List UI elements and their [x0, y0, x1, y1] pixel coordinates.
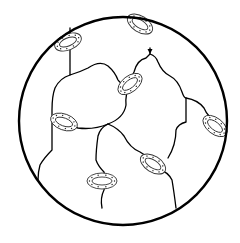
polymer-chain — [160, 170, 176, 208]
polymer-chain — [150, 54, 218, 122]
ring-crosslinker-icon — [137, 150, 169, 178]
ring-crosslinker-icon — [124, 10, 156, 38]
polymer-chain — [168, 98, 186, 158]
polymer-chain — [96, 124, 108, 208]
boundary-circle — [19, 17, 227, 225]
polymer-network-diagram — [0, 0, 240, 243]
rings-layer — [48, 10, 231, 189]
ring-crosslinker-icon — [48, 110, 80, 135]
ring-crosslinker-icon — [114, 69, 146, 99]
arrow-head-icon — [148, 49, 153, 54]
ring-crosslinker-icon — [87, 173, 117, 189]
polymer-chain — [108, 124, 150, 158]
